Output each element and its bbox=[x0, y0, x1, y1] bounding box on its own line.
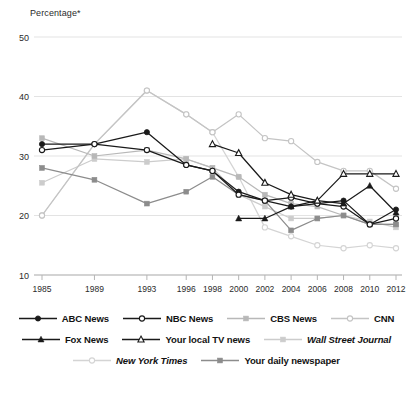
legend-swatch bbox=[22, 334, 60, 345]
data-point bbox=[315, 243, 320, 248]
legend-swatch bbox=[264, 334, 302, 345]
legend-item-nbc-news[interactable]: NBC News bbox=[123, 313, 213, 324]
data-point bbox=[209, 141, 215, 147]
data-point bbox=[184, 157, 189, 162]
y-axis-tick-label: 40 bbox=[19, 92, 29, 102]
data-point bbox=[92, 177, 97, 182]
y-axis-tick-label: 10 bbox=[19, 271, 29, 281]
legend-label: Your local TV news bbox=[165, 334, 250, 345]
data-point bbox=[289, 216, 294, 221]
gridlines bbox=[34, 37, 402, 275]
y-axis-tick-label: 30 bbox=[19, 152, 29, 162]
x-axis-tick-label: 1998 bbox=[203, 284, 222, 294]
data-point bbox=[393, 170, 399, 176]
legend-label: CBS News bbox=[270, 313, 317, 324]
data-point bbox=[262, 225, 267, 230]
data-point bbox=[288, 191, 294, 197]
data-point bbox=[236, 112, 241, 117]
legend-item-cbs-news[interactable]: CBS News bbox=[227, 313, 317, 324]
data-point bbox=[184, 112, 189, 117]
legend-item-new-york-times[interactable]: New York Times bbox=[73, 355, 187, 366]
x-axis-tick-label: 2010 bbox=[360, 284, 379, 294]
data-point bbox=[393, 186, 398, 191]
legend-item-wall-street-journal[interactable]: Wall Street Journal bbox=[264, 334, 391, 345]
legend-marker bbox=[35, 316, 40, 321]
x-axis-tick-label: 2008 bbox=[334, 284, 353, 294]
legend-label: Your daily newspaper bbox=[244, 355, 340, 366]
data-point bbox=[92, 142, 97, 147]
x-axis-tick-label: 2012 bbox=[387, 284, 406, 294]
data-point bbox=[394, 222, 399, 227]
data-point bbox=[262, 204, 267, 209]
legend-label: ABC News bbox=[62, 313, 109, 324]
x-axis-tick-label: 1989 bbox=[85, 284, 104, 294]
x-axis-tick-label: 2000 bbox=[229, 284, 248, 294]
legend-swatch bbox=[331, 313, 369, 324]
data-point bbox=[40, 180, 45, 185]
x-axis-tick-label: 1985 bbox=[33, 284, 52, 294]
legend-label: Wall Street Journal bbox=[307, 334, 391, 345]
data-point bbox=[184, 189, 189, 194]
data-point bbox=[341, 246, 346, 251]
data-point bbox=[210, 130, 215, 135]
x-axis-tick-label: 2006 bbox=[308, 284, 327, 294]
legend-item-fox-news[interactable]: Fox News bbox=[22, 334, 109, 345]
data-point bbox=[144, 160, 149, 165]
legend-marker bbox=[139, 316, 144, 321]
line-chart-plot: 1020304050 19851989199319961998200020022… bbox=[0, 0, 413, 300]
data-point bbox=[144, 88, 149, 93]
data-point bbox=[262, 192, 267, 197]
data-point bbox=[262, 136, 267, 141]
data-point bbox=[210, 174, 215, 179]
legend-marker bbox=[347, 316, 352, 321]
legend-swatch bbox=[73, 355, 111, 366]
legend-marker bbox=[138, 336, 144, 342]
data-point bbox=[236, 174, 241, 179]
y-axis-tick-label: 50 bbox=[19, 33, 29, 43]
legend-swatch bbox=[122, 334, 160, 345]
x-axis-tick-label: 1993 bbox=[137, 284, 156, 294]
data-point bbox=[289, 228, 294, 233]
data-point bbox=[393, 246, 398, 251]
data-point bbox=[315, 216, 320, 221]
legend-label: CNN bbox=[374, 313, 394, 324]
data-point bbox=[289, 139, 294, 144]
data-point bbox=[40, 166, 45, 171]
legend-marker bbox=[89, 358, 94, 363]
legend-item-abc-news[interactable]: ABC News bbox=[19, 313, 109, 324]
series-line bbox=[42, 91, 396, 216]
data-point bbox=[40, 136, 45, 141]
legend-marker bbox=[281, 337, 286, 342]
legend-item-your-daily-newspaper[interactable]: Your daily newspaper bbox=[201, 355, 340, 366]
legend-item-your-local-tv-news[interactable]: Your local TV news bbox=[122, 334, 250, 345]
x-axis-tick-label: 1996 bbox=[177, 284, 196, 294]
legend-item-cnn[interactable]: CNN bbox=[331, 313, 394, 324]
legend-swatch bbox=[227, 313, 265, 324]
data-point bbox=[367, 222, 372, 227]
chart-legend: ABC NewsNBC NewsCBS NewsCNNFox NewsYour … bbox=[0, 308, 413, 371]
data-point bbox=[39, 213, 44, 218]
data-point bbox=[236, 192, 241, 197]
data-point bbox=[92, 154, 97, 159]
x-axis-tick-label: 2004 bbox=[282, 284, 301, 294]
data-point bbox=[393, 216, 398, 221]
legend-row: ABC NewsNBC NewsCBS NewsCNN bbox=[0, 308, 413, 329]
data-point bbox=[236, 150, 242, 156]
x-axis-tick-label: 2002 bbox=[255, 284, 274, 294]
data-point bbox=[367, 183, 373, 189]
data-point bbox=[315, 159, 320, 164]
legend-label: NBC News bbox=[166, 313, 213, 324]
legend-swatch bbox=[19, 313, 57, 324]
data-point bbox=[39, 147, 44, 152]
x-axis-line bbox=[34, 275, 402, 280]
data-point bbox=[289, 234, 294, 239]
legend-marker bbox=[244, 316, 249, 321]
data-point bbox=[184, 162, 189, 167]
data-point bbox=[144, 130, 149, 135]
data-point bbox=[262, 198, 267, 203]
y-axis-tick-labels: 1020304050 bbox=[19, 33, 29, 281]
chart-container: Percentage* 1020304050 19851989199319961… bbox=[0, 0, 413, 397]
legend-marker bbox=[218, 358, 223, 363]
data-point bbox=[210, 168, 215, 173]
legend-label: Fox News bbox=[65, 334, 109, 345]
